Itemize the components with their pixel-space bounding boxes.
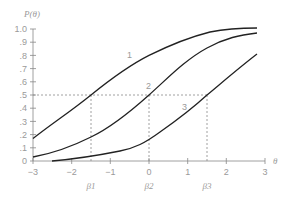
svg-text:3: 3	[262, 167, 267, 177]
curve-3	[52, 54, 257, 161]
x-tick-labels: −3 −2 −1 0 1 2 3	[28, 167, 268, 177]
icc-chart: 0 .1 .2 .3 .4 .5 .6 .7 .8 .9 1.0 −3 −2 −…	[0, 0, 291, 198]
svg-text:−3: −3	[28, 167, 38, 177]
curve-1-label: 1	[127, 50, 132, 60]
svg-text:2: 2	[224, 167, 229, 177]
svg-text:.4: .4	[19, 103, 27, 113]
svg-text:−1: −1	[105, 167, 115, 177]
svg-text:.5: .5	[19, 90, 27, 100]
svg-text:.7: .7	[19, 64, 27, 74]
svg-text:−2: −2	[67, 167, 77, 177]
svg-text:.6: .6	[19, 77, 27, 87]
svg-text:1.0: 1.0	[14, 24, 27, 34]
svg-text:.2: .2	[19, 130, 27, 140]
y-axis-title: P(θ)	[23, 9, 40, 19]
svg-text:0: 0	[146, 167, 151, 177]
curve-2-label: 2	[146, 81, 151, 91]
curve-3-label: 3	[182, 102, 187, 112]
svg-text:1: 1	[185, 167, 190, 177]
svg-text:.8: .8	[19, 51, 27, 61]
curve-1	[33, 28, 257, 139]
svg-text:0: 0	[22, 156, 27, 166]
beta3-label: β3	[202, 181, 212, 191]
svg-text:.1: .1	[19, 143, 27, 153]
curves	[33, 28, 257, 161]
y-tick-labels: 0 .1 .2 .3 .4 .5 .6 .7 .8 .9 1.0	[14, 24, 27, 166]
beta1-label: β1	[86, 181, 96, 191]
beta2-label: β2	[144, 181, 154, 191]
svg-text:.3: .3	[19, 117, 27, 127]
x-axis-title: θ	[273, 156, 278, 166]
svg-text:.9: .9	[19, 37, 27, 47]
